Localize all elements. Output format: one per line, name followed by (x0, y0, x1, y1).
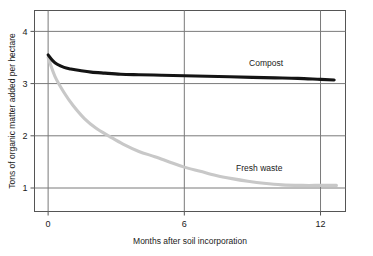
y-tick-label: 4 (22, 27, 27, 37)
x-axis-title: Months after soil incorporation (133, 236, 247, 246)
series-line-compost (48, 55, 334, 80)
y-tick-label: 3 (22, 79, 27, 89)
annotation-label-fresh-waste: Fresh waste (236, 163, 283, 173)
y-axis-ticks: 1234 (22, 27, 34, 194)
data-series-group (48, 55, 336, 186)
x-axis-ticks: 0612 (46, 212, 326, 229)
organic-matter-decay-line-chart: 1234 0612 CompostFresh waste Months afte… (0, 0, 373, 256)
y-tick-label: 2 (22, 131, 27, 141)
gridlines (35, 11, 346, 212)
y-axis-title: Tons of organic matter added per hectare (7, 33, 17, 189)
x-tick-label: 6 (182, 219, 187, 229)
x-tick-label: 12 (316, 219, 326, 229)
chart-container: 1234 0612 CompostFresh waste Months afte… (0, 0, 373, 256)
plot-frame (35, 11, 346, 212)
annotation-label-compost: Compost (249, 58, 284, 68)
x-tick-label: 0 (46, 219, 51, 229)
y-tick-label: 1 (22, 183, 27, 193)
